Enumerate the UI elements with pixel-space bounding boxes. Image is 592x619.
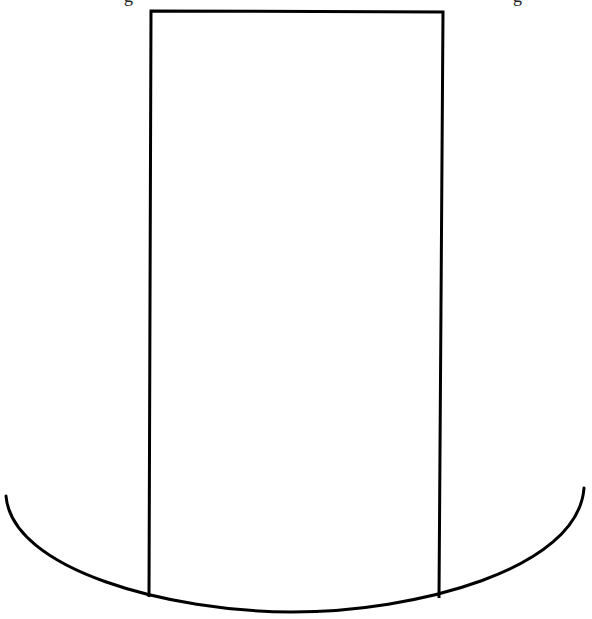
clipped-caption-text: g g <box>0 0 592 6</box>
curved-base-arc <box>6 488 584 612</box>
column-rectangle <box>149 11 443 598</box>
diagram-svg <box>0 0 592 619</box>
caption-fragment-right: g <box>513 0 522 6</box>
diagram-canvas: g g <box>0 0 592 619</box>
caption-fragment-left: g <box>124 0 133 6</box>
